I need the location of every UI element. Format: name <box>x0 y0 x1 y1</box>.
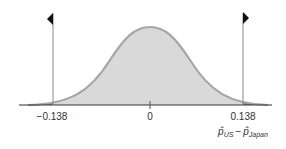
left-flag-icon <box>47 13 53 25</box>
tick-label-center: 0 <box>147 111 153 122</box>
sampling-distribution-diagram: −0.138 0 0.138 p̂US−p̂Japan <box>0 0 286 149</box>
normal-curve-area <box>28 27 268 105</box>
tick-label-left: −0.138 <box>37 111 68 122</box>
x-axis-label: p̂US−p̂Japan <box>217 126 268 139</box>
tick-label-right: 0.138 <box>230 111 255 122</box>
right-flag-icon <box>243 12 249 24</box>
